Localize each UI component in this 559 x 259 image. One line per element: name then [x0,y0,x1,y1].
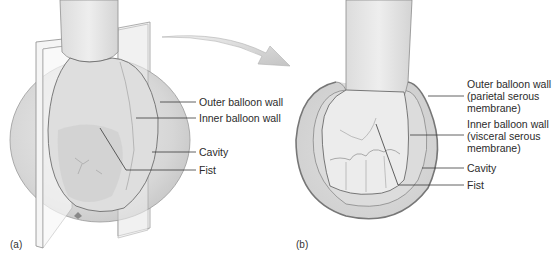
label-outer-balloon-wall-parietal-b: Outer balloon wall (parietal serous memb… [467,78,551,114]
panel-tag-a: (a) [10,239,22,250]
transition-arrow-icon [162,36,290,66]
panel-tag-b: (b) [296,239,308,250]
label-fist-a: Fist [199,164,216,176]
label-inner-balloon-wall-visceral-b: Inner balloon wall (visceral serous memb… [467,118,549,154]
label-inner-balloon-wall-a: Inner balloon wall [199,112,281,124]
serous-membrane-diagram: Outer balloon wall Inner balloon wall Ca… [0,0,559,259]
label-cavity-a: Cavity [199,146,228,158]
label-outer-balloon-wall-a: Outer balloon wall [199,96,283,108]
label-cavity-b: Cavity [467,162,496,174]
label-fist-b: Fist [467,179,484,191]
panel-b-illustration [296,0,438,219]
